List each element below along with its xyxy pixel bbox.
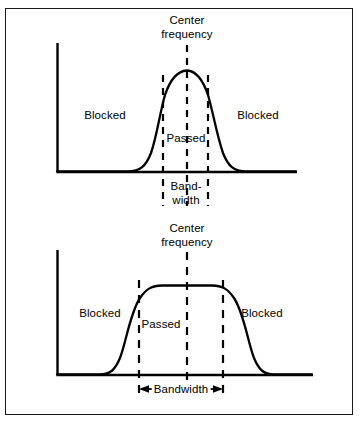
top-center-frequency-line-1: Center bbox=[161, 14, 212, 28]
top-center-frequency-line-2: frequency bbox=[161, 28, 212, 42]
top-bandwidth-line-2: width bbox=[170, 194, 201, 208]
bottom-chart-response-curve bbox=[57, 286, 312, 375]
bottom-chart-blocked-left-label: Blocked bbox=[79, 307, 121, 320]
bottom-chart-group bbox=[57, 250, 314, 400]
bandwidth-arrow-right-head bbox=[213, 385, 223, 393]
top-chart-center-frequency-label: Center frequency bbox=[161, 14, 212, 41]
top-chart-bandwidth-label: Band- width bbox=[170, 180, 201, 207]
top-chart-blocked-left-label: Blocked bbox=[84, 109, 126, 122]
top-chart-blocked-right-label: Blocked bbox=[237, 109, 279, 122]
filter-response-diagram bbox=[0, 0, 361, 424]
top-bandwidth-line-1: Band- bbox=[170, 180, 201, 194]
figure-page: Center frequency Blocked Passed Blocked … bbox=[0, 0, 361, 424]
bottom-center-frequency-line-1: Center bbox=[161, 222, 212, 236]
bottom-chart-bandwidth-label: Bandwidth bbox=[152, 383, 211, 396]
bandwidth-arrow-left-head bbox=[139, 385, 149, 393]
bottom-chart-center-frequency-label: Center frequency bbox=[161, 222, 212, 249]
top-chart-passed-label: Passed bbox=[167, 132, 206, 145]
bottom-chart-blocked-right-label: Blocked bbox=[241, 307, 283, 320]
bottom-chart-passed-label: Passed bbox=[142, 318, 181, 331]
bottom-center-frequency-line-2: frequency bbox=[161, 236, 212, 250]
